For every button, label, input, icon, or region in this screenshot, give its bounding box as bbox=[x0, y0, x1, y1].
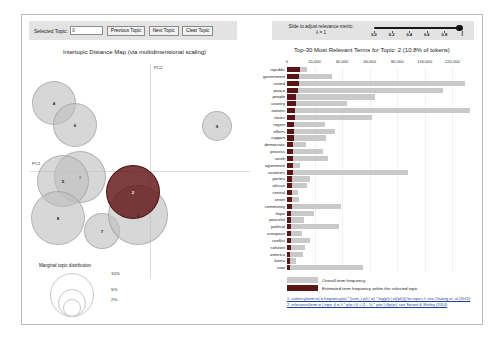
topic-bubble-9[interactable]: 9 bbox=[202, 111, 232, 141]
bar-row[interactable]: union bbox=[287, 197, 473, 204]
bar-row[interactable]: central bbox=[287, 190, 473, 197]
bar-overall-frequency bbox=[287, 94, 375, 99]
next-topic-button[interactable]: Next Topic bbox=[149, 26, 179, 36]
legend-swatch-topic bbox=[287, 285, 318, 290]
bar-term-label: countries bbox=[268, 170, 285, 175]
topic-bubble-number: 5 bbox=[62, 179, 64, 184]
bar-topic-frequency bbox=[287, 252, 290, 257]
bar-term-label: central bbox=[272, 190, 285, 195]
bar-topic-frequency bbox=[287, 217, 291, 222]
bar-row[interactable]: states bbox=[287, 115, 473, 122]
bar-topic-frequency bbox=[287, 88, 298, 93]
bar-topic-frequency bbox=[287, 129, 294, 134]
bar-row[interactable]: countries bbox=[287, 170, 473, 177]
bar-row[interactable]: government bbox=[287, 74, 473, 81]
relevance-slider-caption: Slide to adjust relevance metric: λ = 1 bbox=[277, 24, 365, 36]
bar-topic-frequency bbox=[287, 183, 292, 188]
bar-row[interactable]: political bbox=[287, 224, 473, 231]
bar-term-label: people bbox=[272, 94, 285, 99]
bar-row[interactable]: region bbox=[287, 122, 473, 129]
map-axis-label-pc2: PC2 bbox=[154, 65, 163, 70]
marginal-legend-title: Marginal topic distribution bbox=[39, 263, 91, 268]
bar-term-label: hope bbox=[276, 211, 285, 216]
bar-row[interactable]: community bbox=[287, 204, 473, 211]
bar-row[interactable]: hope bbox=[287, 211, 473, 218]
bar-row[interactable]: united bbox=[287, 81, 473, 88]
bar-row[interactable]: nations bbox=[287, 108, 473, 115]
selected-topic-label: Selected Topic: bbox=[34, 28, 68, 34]
bar-term-label: conflict bbox=[272, 238, 285, 243]
bar-topic-frequency bbox=[287, 258, 290, 263]
bar-row[interactable]: solution bbox=[287, 245, 473, 252]
slider-instruction-label: Slide to adjust relevance metric: bbox=[277, 24, 365, 30]
bar-row[interactable]: parties bbox=[287, 176, 473, 183]
bar-topic-frequency bbox=[287, 94, 296, 99]
bar-topic-frequency bbox=[287, 108, 295, 113]
bar-term-label: peaceful bbox=[269, 217, 285, 222]
bar-topic-frequency bbox=[287, 156, 293, 161]
slider-tick-label: 0.8 bbox=[442, 32, 448, 37]
bar-term-label: country bbox=[271, 101, 285, 106]
bar-row[interactable]: republic bbox=[287, 67, 473, 74]
bar-term-label: now bbox=[277, 265, 285, 270]
x-axis-tick-label: 0 bbox=[286, 59, 288, 64]
marginal-size-label: 10% bbox=[111, 271, 120, 276]
bar-topic-frequency bbox=[287, 67, 300, 72]
topic-bubble-number: 6 bbox=[74, 123, 76, 128]
bar-topic-frequency bbox=[287, 204, 292, 209]
selected-topic-input[interactable] bbox=[70, 26, 103, 36]
legend-row-topic: Estimated term frequency within the sele… bbox=[287, 285, 418, 291]
bar-topic-frequency bbox=[287, 170, 293, 175]
bar-term-label: support bbox=[271, 135, 285, 140]
topic-bubble-6[interactable]: 6 bbox=[53, 103, 97, 147]
footnote-relevance[interactable]: 2. relevance(term w | topic t) = λ * p(w… bbox=[287, 302, 483, 308]
legend-swatch-overall bbox=[287, 277, 318, 282]
topic-bubble-number: 2 bbox=[132, 190, 134, 195]
bar-term-label: south bbox=[275, 156, 285, 161]
slider-tick-label: 0.6 bbox=[424, 32, 430, 37]
clear-topic-button[interactable]: Clear Topic bbox=[182, 26, 213, 36]
previous-topic-button[interactable]: Previous Topic bbox=[107, 26, 145, 36]
slider-tick-label: 0.2 bbox=[389, 32, 395, 37]
top-terms-bar-chart: 020,00040,00060,00080,000100,000120,000 … bbox=[256, 55, 484, 310]
bar-row[interactable]: peace bbox=[287, 88, 473, 95]
bar-term-label: african bbox=[272, 183, 285, 188]
x-axis-tick-label: 20,000 bbox=[308, 59, 321, 64]
slider-track[interactable] bbox=[374, 27, 462, 30]
bar-row[interactable]: south bbox=[287, 156, 473, 163]
intertopic-distance-map[interactable]: PC2 PC1 469358712 Marginal topic distrib… bbox=[28, 58, 248, 308]
bar-term-label: states bbox=[274, 115, 285, 120]
bar-row[interactable]: america bbox=[287, 252, 473, 259]
bar-term-label: nations bbox=[271, 108, 285, 113]
bar-row[interactable]: efforts bbox=[287, 129, 473, 136]
bar-row[interactable]: european bbox=[287, 231, 473, 238]
bar-term-label: government bbox=[263, 74, 285, 79]
bar-row[interactable]: democratic bbox=[287, 142, 473, 149]
bar-row[interactable]: korea bbox=[287, 258, 473, 265]
bar-row[interactable]: now bbox=[287, 265, 473, 272]
top-terms-title: Top-30 Most Relevant Terms for Topic: 2 … bbox=[294, 47, 450, 53]
topic-bubble-8[interactable]: 8 bbox=[31, 191, 85, 245]
bar-row[interactable]: african bbox=[287, 183, 473, 190]
slider-tick-label: 1 bbox=[461, 32, 463, 37]
marginal-topic-distribution-legend: Marginal topic distribution 2%5%10% bbox=[37, 263, 142, 321]
topic-bubble-number: 8 bbox=[57, 216, 59, 221]
bar-topic-frequency bbox=[287, 224, 291, 229]
bar-topic-frequency bbox=[287, 81, 299, 86]
bar-row[interactable]: country bbox=[287, 101, 473, 108]
bar-row[interactable]: support bbox=[287, 135, 473, 142]
relevance-slider[interactable]: 0.00.20.40.60.81 bbox=[372, 24, 470, 38]
bar-overall-frequency bbox=[287, 115, 372, 120]
bar-topic-frequency bbox=[287, 231, 291, 236]
slider-tick-label: 0.0 bbox=[371, 32, 377, 37]
bar-row[interactable]: agreement bbox=[287, 163, 473, 170]
bar-row[interactable]: conflict bbox=[287, 238, 473, 245]
bar-row[interactable]: peaceful bbox=[287, 217, 473, 224]
bar-term-label: peace bbox=[274, 88, 285, 93]
bar-term-label: solution bbox=[271, 245, 285, 250]
bar-row[interactable]: process bbox=[287, 149, 473, 156]
topic-bubble-number: 7 bbox=[101, 229, 103, 234]
bar-row[interactable]: people bbox=[287, 94, 473, 101]
topic-bubble-2[interactable]: 2 bbox=[106, 165, 160, 219]
bar-overall-frequency bbox=[287, 224, 339, 229]
